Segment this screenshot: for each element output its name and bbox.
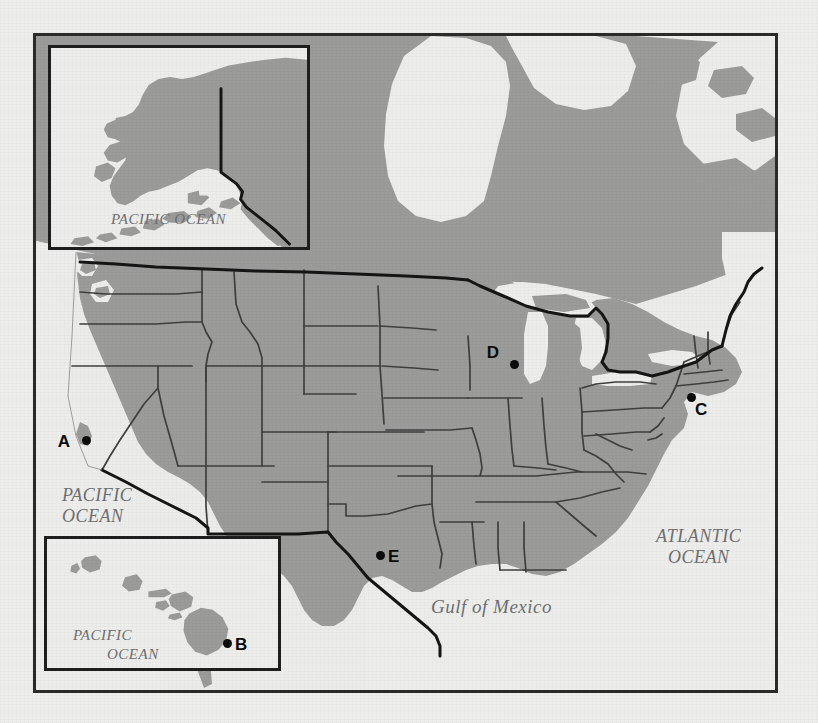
point-A-label: A <box>58 433 70 450</box>
map-page: PACIFIC OCEAN <box>0 0 818 723</box>
point-A-dot <box>82 436 91 445</box>
map-frame: PACIFIC OCEAN <box>33 33 778 693</box>
pacific-label-line2: OCEAN <box>73 645 159 664</box>
point-C-label: C <box>695 401 707 418</box>
pacific-ocean-label-alaska: PACIFIC OCEAN <box>111 211 226 229</box>
point-D-dot <box>510 360 519 369</box>
point-E-label: E <box>388 548 399 565</box>
hawaii-inset: PACIFIC OCEAN B <box>44 536 281 671</box>
pacific-label-line1: PACIFIC <box>73 627 132 643</box>
point-B-label: B <box>235 636 247 653</box>
alaska-inset: PACIFIC OCEAN <box>48 45 310 250</box>
point-B-dot <box>223 639 232 648</box>
pacific-ocean-label-hawaii: PACIFIC OCEAN <box>73 607 159 671</box>
pacific-ocean-label: PACIFIC OCEAN <box>62 485 132 527</box>
point-D-label: D <box>487 344 499 361</box>
atlantic-ocean-label: ATLANTIC OCEAN <box>656 526 741 568</box>
point-E-dot <box>376 551 385 560</box>
gulf-of-mexico-label: Gulf of Mexico <box>431 596 552 618</box>
